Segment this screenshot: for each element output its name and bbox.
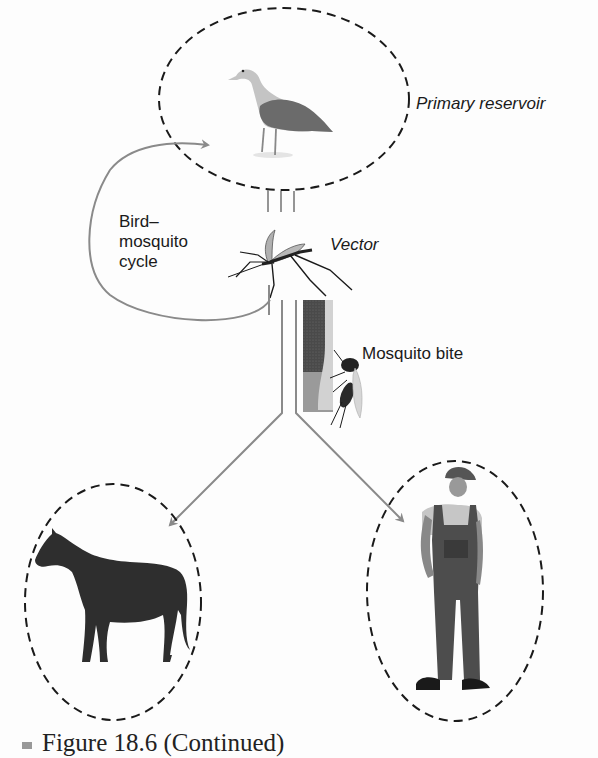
horse-icon bbox=[35, 528, 190, 662]
primary-reservoir-label: Primary reservoir bbox=[416, 94, 545, 114]
human-icon bbox=[416, 467, 490, 690]
reservoir-ellipse bbox=[159, 8, 409, 190]
mosquito-bite-label: Mosquito bite bbox=[362, 344, 463, 364]
figure-caption: Figure 18.6 (Continued) bbox=[22, 728, 284, 758]
mosquito-bite-illustration bbox=[303, 300, 362, 428]
caption-bullet-icon bbox=[22, 742, 32, 749]
reservoir-connector-lines bbox=[268, 190, 294, 212]
bird-mosquito-cycle-label: Bird– mosquito cycle bbox=[119, 212, 188, 272]
bird-icon bbox=[228, 70, 333, 158]
vector-label: Vector bbox=[330, 235, 379, 255]
figure-caption-text: Figure 18.6 (Continued) bbox=[42, 729, 284, 756]
